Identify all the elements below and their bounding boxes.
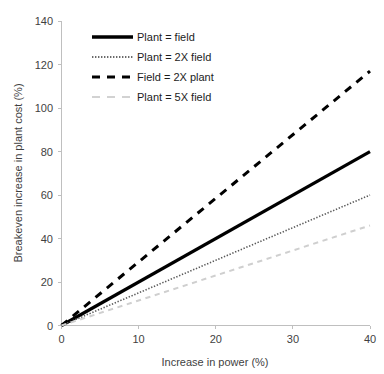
x-axis-title: Increase in power (%) xyxy=(162,356,269,368)
line-chart: 0 20 40 60 80 100 120 140 0 10 20 30 40 … xyxy=(0,0,384,374)
legend-label-plant-5x-field: Plant = 5X field xyxy=(137,91,211,103)
x-tick-label-30: 30 xyxy=(287,333,299,345)
y-tick-label-120: 120 xyxy=(35,59,53,71)
x-tick-label-20: 20 xyxy=(210,333,222,345)
legend-label-plant-2x-field: Plant = 2X field xyxy=(137,51,211,63)
y-tick-label-20: 20 xyxy=(41,276,53,288)
x-tick-label-10: 10 xyxy=(132,333,144,345)
y-tick-label-40: 40 xyxy=(41,233,53,245)
chart-container: 0 20 40 60 80 100 120 140 0 10 20 30 40 … xyxy=(0,0,384,374)
x-tick-label-0: 0 xyxy=(58,333,64,345)
chart-legend: Plant = field Plant = 2X field Field = 2… xyxy=(84,24,214,108)
y-tick-label-80: 80 xyxy=(41,146,53,158)
legend-label-field-2x-plant: Field = 2X plant xyxy=(137,71,214,83)
y-axis-title: Breakeven increase in plant cost (%) xyxy=(12,83,24,262)
y-tick-label-0: 0 xyxy=(47,320,53,332)
y-tick-label-100: 100 xyxy=(35,102,53,114)
y-tick-label-60: 60 xyxy=(41,189,53,201)
legend-label-plant-eq-field: Plant = field xyxy=(137,31,195,43)
y-tick-label-140: 140 xyxy=(35,15,53,27)
x-tick-label-40: 40 xyxy=(364,333,376,345)
